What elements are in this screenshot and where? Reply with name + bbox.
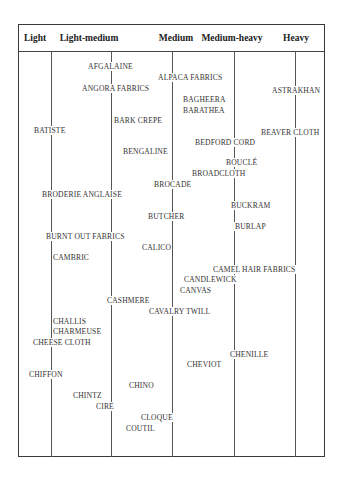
fabric-label: CANVAS xyxy=(179,286,212,295)
fabric-label: BENGALINE xyxy=(122,147,169,156)
fabric-label: CHARMEUSE xyxy=(52,327,102,336)
fabric-label: CHENILLE xyxy=(229,350,269,359)
fabric-label: BUTCHER xyxy=(147,212,186,221)
fabric-label: BAGHEERA xyxy=(182,95,227,104)
column-divider-line xyxy=(172,51,173,457)
fabric-label: BROADCLOTH xyxy=(191,169,246,178)
fabric-label: BARATHEA xyxy=(182,106,226,115)
column-divider-line xyxy=(234,51,235,457)
fabric-label: CAVALRY TWILL xyxy=(148,307,211,316)
fabric-label: BEAVER CLOTH xyxy=(260,128,320,137)
fabric-label: BUCKRAM xyxy=(230,201,271,210)
fabric-label: BROCADE xyxy=(153,180,192,189)
fabric-label: CHIFFON xyxy=(28,370,64,379)
fabric-label: CHINTZ xyxy=(72,391,103,400)
fabric-label: BATISTE xyxy=(33,126,66,135)
column-header-light-medium: Light-medium xyxy=(60,33,119,43)
fabric-label: BRODERIE ANGLAISE xyxy=(41,190,123,199)
fabric-label: BARK CREPE xyxy=(113,116,163,125)
fabric-label: CAMBRIC xyxy=(52,253,90,262)
fabric-label: CHEESE CLOTH xyxy=(32,338,92,347)
fabric-label: COUTIL xyxy=(125,424,156,433)
fabric-label: ANGORA FABRICS xyxy=(81,84,150,93)
fabric-label: AFGALAINE xyxy=(87,62,134,71)
fabric-label: BURLAP xyxy=(234,222,267,231)
column-header-heavy: Heavy xyxy=(283,33,309,43)
column-header-light: Light xyxy=(24,33,46,43)
fabric-label: ALPACA FABRICS xyxy=(157,73,223,82)
fabric-label: BEDFORD CORD xyxy=(194,138,256,147)
fabric-label: CHEVIOT xyxy=(186,360,222,369)
fabric-label: CALICO xyxy=(141,243,172,252)
fabric-label: CIRE xyxy=(95,402,115,411)
fabric-label: BOUCLÉ xyxy=(225,158,258,167)
fabric-label: CASHMERE xyxy=(106,296,151,305)
column-divider-line xyxy=(295,51,296,457)
column-divider-line xyxy=(111,51,112,457)
fabric-label: BURNT OUT FABRICS xyxy=(45,232,126,241)
fabric-label: CHALLIS xyxy=(52,317,87,326)
fabric-label: CLOQUE xyxy=(140,413,174,422)
fabric-label: CAMEL HAIR FABRICS xyxy=(212,265,296,274)
column-header-medium-heavy: Medium-heavy xyxy=(201,33,262,43)
fabric-label: CHINO xyxy=(128,381,155,390)
fabric-label: CANDLEWICK xyxy=(183,275,238,284)
column-header-medium: Medium xyxy=(159,33,193,43)
fabric-label: ASTRAKHAN xyxy=(271,86,321,95)
